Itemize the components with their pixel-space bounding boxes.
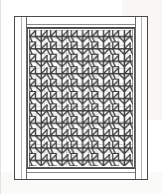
lattice-fret-motif (29, 30, 133, 166)
lattice-infill (29, 30, 133, 166)
lattice-panel-drawing (0, 0, 162, 194)
screenshot-canvas: Lattice Panel Elevation top rail bottom … (0, 0, 162, 194)
